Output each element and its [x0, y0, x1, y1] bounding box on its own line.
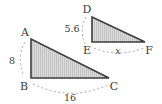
- dimension-arc-de: [82, 17, 86, 44]
- vertex-label-a: A: [20, 26, 30, 39]
- figure-canvas: A B C 8 16 D E F 5.6 x: [0, 0, 162, 104]
- triangle-def: D E F 5.6 x: [64, 3, 153, 57]
- measure-label-ab: 8: [9, 55, 15, 66]
- vertex-label-e: E: [83, 44, 91, 57]
- measure-label-de: 5.6: [64, 23, 79, 34]
- geometry-figure: A B C 8 16 D E F 5.6 x: [0, 0, 162, 104]
- vertex-label-f: F: [145, 44, 153, 57]
- measure-label-bc: 16: [64, 92, 76, 103]
- vertex-label-d: D: [83, 3, 92, 16]
- vertex-label-b: B: [20, 80, 28, 93]
- measure-label-ef: x: [115, 45, 121, 56]
- vertex-label-c: C: [110, 80, 118, 93]
- dimension-arc-ab: [20, 42, 25, 76]
